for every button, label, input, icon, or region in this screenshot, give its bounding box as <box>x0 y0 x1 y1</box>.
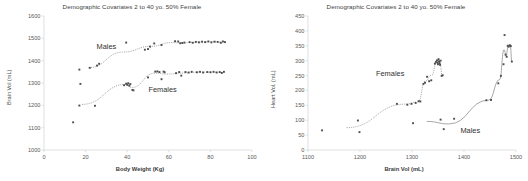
data-point-females <box>357 120 359 122</box>
data-point-males <box>497 82 499 84</box>
data-point-males <box>510 45 512 47</box>
data-point-females <box>199 71 201 73</box>
data-point-males <box>198 41 200 43</box>
data-point-males <box>490 99 492 101</box>
data-point-males <box>96 65 98 67</box>
x-tick-label: 40 <box>124 154 130 160</box>
series-annotation: Females <box>148 85 177 94</box>
data-point-males <box>504 34 506 36</box>
dual-scatter-figure: Demographic Covariates 2 to 40 yo. 50% F… <box>0 0 528 181</box>
data-point-females <box>223 71 225 73</box>
data-point-males <box>506 56 508 58</box>
x-tick-label: 1500 <box>510 154 522 160</box>
data-point-females <box>188 72 190 74</box>
data-point-males <box>443 128 445 130</box>
data-point-females <box>424 82 426 84</box>
x-tick-label: 1200 <box>354 154 366 160</box>
data-point-females <box>94 105 96 107</box>
data-point-females <box>321 129 323 131</box>
data-point-females <box>127 82 129 84</box>
data-point-males <box>144 49 146 51</box>
data-point-females <box>78 105 80 107</box>
y-tick-label: 150 <box>295 102 304 108</box>
data-point-males <box>78 69 80 71</box>
x-tick-label: 0 <box>42 154 45 160</box>
data-point-females <box>430 79 432 81</box>
y-tick-label: 450 <box>295 13 304 19</box>
data-point-males <box>503 63 505 65</box>
series-annotation: Females <box>376 69 405 78</box>
series-annotation: Males <box>460 126 480 135</box>
data-point-males <box>192 42 194 44</box>
y-tick-label: 200 <box>295 87 304 93</box>
y-tick-label: 250 <box>295 73 304 79</box>
data-point-females <box>439 64 441 66</box>
data-point-females <box>178 71 180 73</box>
data-point-males <box>177 41 179 43</box>
data-point-females <box>196 71 198 73</box>
y-tick-label: 1600 <box>28 13 40 19</box>
data-point-females <box>158 71 160 73</box>
data-point-females <box>123 84 125 86</box>
data-point-females <box>439 62 441 64</box>
y-tick-label: 50 <box>298 132 304 138</box>
data-point-males <box>201 41 203 43</box>
trend-line-males <box>427 46 512 124</box>
data-point-males <box>179 42 181 44</box>
x-tick-label: 60 <box>166 154 172 160</box>
data-point-males <box>89 67 91 69</box>
data-point-males <box>453 118 455 120</box>
data-point-males <box>147 48 149 50</box>
y-tick-label: 0 <box>301 147 304 153</box>
data-point-females <box>147 76 149 78</box>
data-point-females <box>415 102 417 104</box>
data-point-males <box>204 41 206 43</box>
data-point-males <box>220 42 222 44</box>
data-point-males <box>224 41 226 43</box>
data-point-females <box>426 76 428 78</box>
x-tick-label: 20 <box>82 154 88 160</box>
data-point-females <box>156 70 158 72</box>
data-point-males <box>222 41 224 43</box>
data-point-females <box>191 71 193 73</box>
data-point-males <box>195 41 197 43</box>
data-point-males <box>98 63 100 65</box>
y-tick-label: 350 <box>295 43 304 49</box>
y-tick-label: 300 <box>295 58 304 64</box>
data-point-females <box>180 75 182 77</box>
data-point-females <box>411 103 413 105</box>
chart-panel-right: Demographic Covariates 2 to 40 yo. 50% F… <box>264 0 528 181</box>
y-tick-label: 100 <box>295 117 304 123</box>
chart-panel-left: Demographic Covariates 2 to 40 yo. 50% F… <box>0 0 264 181</box>
data-point-females <box>219 71 221 73</box>
data-point-males <box>210 41 212 43</box>
plot-area-right: 0501001502002503003504004501100120013001… <box>264 0 528 181</box>
data-point-males <box>149 46 151 48</box>
y-tick-label: 1400 <box>28 58 40 64</box>
data-point-females <box>161 78 163 80</box>
data-point-females <box>79 83 81 85</box>
data-point-females <box>154 71 156 73</box>
data-point-males <box>161 44 163 46</box>
x-tick-label: 80 <box>207 154 213 160</box>
data-point-females <box>184 71 186 73</box>
data-point-males <box>214 41 216 43</box>
data-point-females <box>206 71 208 73</box>
data-point-males <box>183 42 185 44</box>
data-point-males <box>189 41 191 43</box>
data-point-females <box>396 103 398 105</box>
x-tick-label: 1300 <box>406 154 418 160</box>
data-point-females <box>129 83 131 85</box>
data-point-males <box>153 43 155 45</box>
plot-area-left: 1000110012001300140015001600020406080100… <box>0 0 264 181</box>
data-point-males <box>505 54 507 56</box>
data-point-females <box>216 72 218 74</box>
series-annotation: Males <box>97 42 117 51</box>
data-point-females <box>419 101 421 103</box>
data-point-males <box>412 122 414 124</box>
data-point-females <box>209 71 211 73</box>
y-tick-label: 1500 <box>28 35 40 41</box>
y-tick-label: 1000 <box>28 147 40 153</box>
data-point-males <box>125 42 127 44</box>
data-point-females <box>442 74 444 76</box>
